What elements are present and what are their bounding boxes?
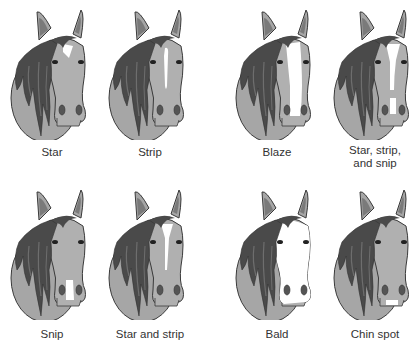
caption-line-1: Star, strip, xyxy=(325,144,412,157)
caption-star: Star xyxy=(2,146,102,159)
caption-star-and-strip: Star and strip xyxy=(100,328,200,341)
horse-star-and-strip: Star and strip xyxy=(100,186,200,320)
horse-head-bald-icon xyxy=(227,186,327,320)
caption-chin-spot: Chin spot xyxy=(325,328,412,341)
caption-strip: Strip xyxy=(100,146,200,159)
horse-head-star-and-strip-icon xyxy=(100,186,200,320)
caption-bald: Bald xyxy=(227,328,327,341)
horse-star-strip-snip: Star, strip, and snip xyxy=(325,6,412,140)
horse-head-star-icon xyxy=(2,6,102,140)
caption-snip: Snip xyxy=(2,328,102,341)
horse-head-chin-spot-icon xyxy=(325,186,412,320)
snip-marking xyxy=(390,98,396,114)
horse-star: Star xyxy=(2,6,102,140)
horse-strip: Strip xyxy=(100,6,200,140)
caption-star-strip-snip: Star, strip, and snip xyxy=(325,144,412,170)
horse-bald: Bald xyxy=(227,186,327,320)
caption-line-2: and snip xyxy=(325,157,412,170)
horse-head-blaze-icon xyxy=(227,6,327,140)
chin-spot-marking xyxy=(386,300,398,305)
horse-blaze: Blaze xyxy=(227,6,327,140)
horse-chin-spot: Chin spot xyxy=(325,186,412,320)
caption-blaze: Blaze xyxy=(227,146,327,159)
snip-marking xyxy=(66,280,74,300)
horse-head-star-strip-snip-icon xyxy=(325,6,412,140)
horse-head-snip-icon xyxy=(2,186,102,320)
horse-head-strip-icon xyxy=(100,6,200,140)
horse-snip: Snip xyxy=(2,186,102,320)
